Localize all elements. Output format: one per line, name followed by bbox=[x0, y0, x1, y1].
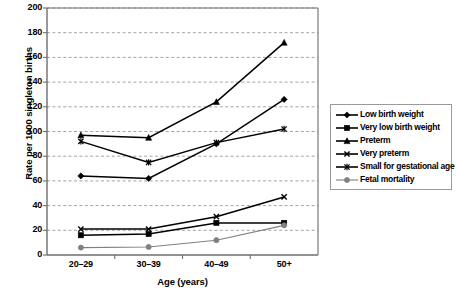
square-marker-icon bbox=[344, 125, 349, 130]
diamond-marker-icon bbox=[78, 173, 84, 179]
legend-item-label: Low birth weight bbox=[360, 110, 424, 119]
x-axis-tick-label: 50+ bbox=[254, 259, 314, 269]
y-axis-tick-label: 200 bbox=[8, 3, 42, 12]
series-fetal-mortality bbox=[78, 223, 286, 250]
y-axis-tick-label: 60 bbox=[8, 176, 42, 185]
circle-marker-icon bbox=[78, 245, 83, 250]
triangle-marker-icon bbox=[334, 135, 360, 147]
y-axis-tick-label: 80 bbox=[8, 151, 42, 160]
square-marker-icon bbox=[334, 122, 360, 134]
y-axis-tick-label: 140 bbox=[8, 77, 42, 86]
legend-item-fetal-mortality[interactable]: Fetal mortality bbox=[334, 173, 449, 186]
x-axis-tick-label: 40–49 bbox=[186, 259, 246, 269]
y-axis-tick-label: 180 bbox=[8, 28, 42, 37]
circle-marker-icon bbox=[214, 238, 219, 243]
legend-item-label: Preterm bbox=[360, 136, 390, 145]
chart-legend: Low birth weightVery low birth weightPre… bbox=[330, 104, 452, 190]
square-marker-icon bbox=[78, 233, 83, 238]
y-axis-tick-label: 20 bbox=[8, 225, 42, 234]
triangle-marker-icon bbox=[281, 39, 287, 45]
x-axis-tick-label: 20–29 bbox=[51, 259, 111, 269]
legend-item-very-low-birth-weight[interactable]: Very low birth weight bbox=[334, 121, 449, 134]
asterisk-marker-icon bbox=[334, 161, 360, 173]
series-line bbox=[81, 43, 284, 138]
axes-frame bbox=[43, 8, 318, 259]
y-axis-tick-label: 120 bbox=[8, 102, 42, 111]
legend-item-label: Small for gestational age bbox=[360, 162, 454, 171]
legend-marker-group bbox=[336, 125, 358, 130]
series-line bbox=[81, 129, 284, 162]
legend-marker-group bbox=[336, 111, 358, 117]
square-marker-icon bbox=[146, 231, 151, 236]
circle-marker-icon bbox=[146, 244, 151, 249]
legend-item-low-birth-weight[interactable]: Low birth weight bbox=[334, 108, 449, 121]
diamond-marker-icon bbox=[334, 109, 360, 121]
series-preterm bbox=[78, 39, 287, 140]
legend-item-small-for-gestational-age[interactable]: Small for gestational age bbox=[334, 160, 449, 173]
series-very-preterm bbox=[78, 194, 286, 231]
x-axis-title: Age (years) bbox=[47, 276, 318, 287]
circle-marker-icon bbox=[334, 174, 360, 186]
circle-marker-icon bbox=[344, 177, 349, 182]
legend-marker-group bbox=[336, 151, 358, 156]
circle-marker-icon bbox=[282, 223, 287, 228]
legend-marker-group bbox=[336, 177, 358, 182]
legend-item-label: Very low birth weight bbox=[360, 123, 440, 132]
legend-item-label: Fetal mortality bbox=[360, 175, 414, 184]
series-low-birth-weight bbox=[78, 96, 287, 181]
y-axis-tick-label: 40 bbox=[8, 201, 42, 210]
y-axis-tick-label: 0 bbox=[8, 250, 42, 259]
diamond-marker-icon bbox=[344, 111, 350, 117]
x-axis-tick-label: 30–39 bbox=[119, 259, 179, 269]
legend-marker-group bbox=[336, 137, 358, 143]
line-chart: Rate per 1000 singleton births 200180160… bbox=[0, 0, 456, 296]
square-marker-icon bbox=[214, 220, 219, 225]
y-axis-tick-label: 160 bbox=[8, 52, 42, 61]
cross-marker-icon bbox=[334, 148, 360, 160]
legend-item-label: Very preterm bbox=[360, 149, 409, 158]
legend-marker-group bbox=[336, 163, 358, 169]
y-axis-tick-label: 100 bbox=[8, 127, 42, 136]
legend-item-very-preterm[interactable]: Very preterm bbox=[334, 147, 449, 160]
legend-item-preterm[interactable]: Preterm bbox=[334, 134, 449, 147]
series-line bbox=[81, 197, 284, 229]
series-line bbox=[81, 99, 284, 178]
